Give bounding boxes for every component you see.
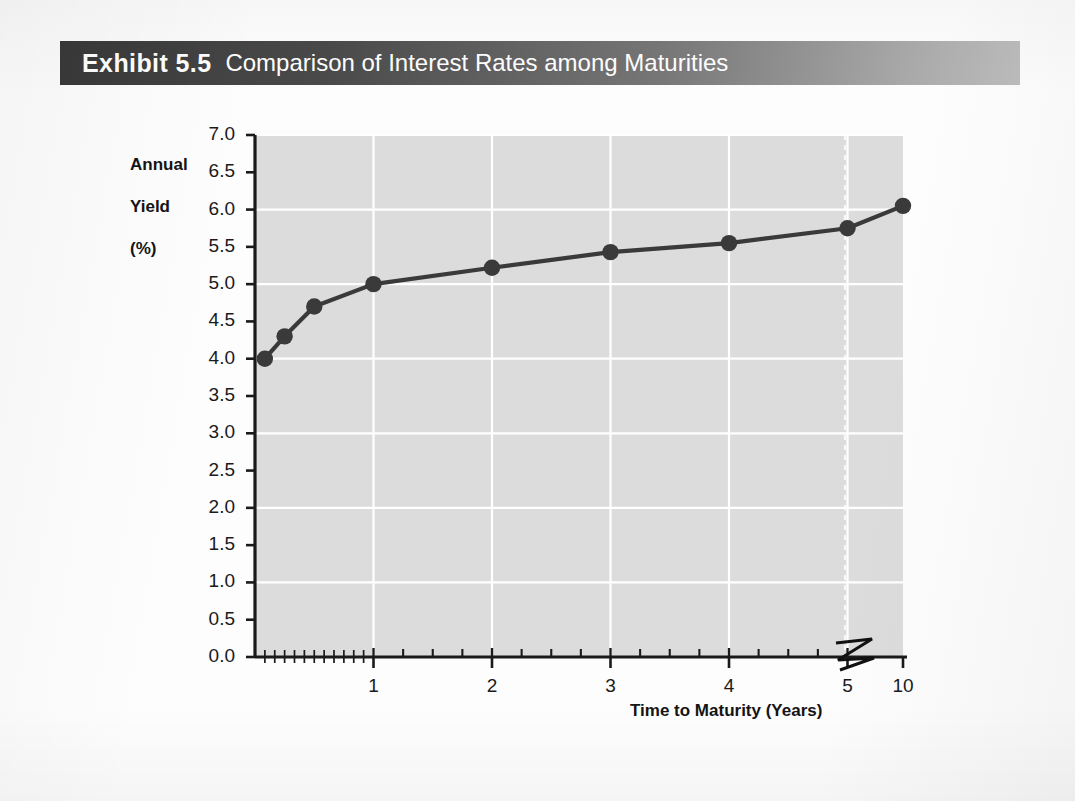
y-tick-label: 6.0	[181, 198, 235, 220]
y-tick-label: 4.5	[181, 309, 235, 331]
y-tick-label: 4.0	[181, 347, 235, 369]
x-tick-label: 1	[354, 675, 394, 697]
y-tick-label: 5.5	[181, 235, 235, 257]
x-tick-label: 2	[472, 675, 512, 697]
plot-background	[255, 135, 903, 657]
x-tick-label: 3	[591, 675, 631, 697]
y-tick-label: 3.0	[181, 421, 235, 443]
y-tick-label: 7.0	[181, 123, 235, 145]
y-tick-label: 1.5	[181, 533, 235, 555]
y-tick-label: 0.5	[181, 608, 235, 630]
chart-figure: Annual Yield (%) Time to Maturity (Years…	[0, 0, 1075, 801]
x-tick-label: 4	[709, 675, 749, 697]
x-tick-label: 5	[828, 675, 868, 697]
y-tick-label: 0.0	[181, 645, 235, 667]
y-tick-label: 1.0	[181, 570, 235, 592]
y-tick-label: 6.5	[181, 160, 235, 182]
x-tick-label: 10	[883, 675, 923, 697]
y-tick-label: 2.0	[181, 496, 235, 518]
page-background: Exhibit 5.5 Comparison of Interest Rates…	[0, 0, 1075, 801]
y-tick-label: 2.5	[181, 459, 235, 481]
y-tick-label: 3.5	[181, 384, 235, 406]
y-tick-label: 5.0	[181, 272, 235, 294]
